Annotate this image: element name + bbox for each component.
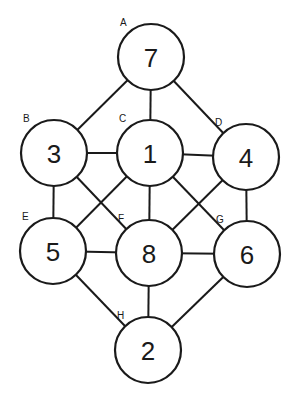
node-C: 1C [117, 113, 183, 186]
node-label: H [117, 310, 124, 321]
node-label: G [216, 214, 224, 225]
node-value: 2 [141, 336, 155, 366]
edges [53, 57, 247, 350]
node-E: 5E [20, 211, 86, 284]
node-value: 7 [144, 43, 158, 73]
node-label: B [23, 113, 30, 124]
node-H: 2H [115, 310, 181, 383]
node-label: F [118, 213, 124, 224]
node-label: A [120, 17, 127, 28]
node-value: 5 [46, 237, 60, 267]
node-label: D [215, 117, 222, 128]
node-value: 4 [239, 143, 253, 173]
node-A: 7A [118, 17, 184, 90]
node-value: 8 [142, 239, 156, 269]
node-value: 6 [240, 240, 254, 270]
node-label: E [22, 211, 29, 222]
node-B: 3B [21, 113, 87, 186]
node-value: 1 [143, 139, 157, 169]
node-F: 8F [116, 213, 182, 286]
node-value: 3 [47, 139, 61, 169]
graph-diagram: 7A3B1C4D5E8F6G2H [0, 0, 295, 406]
node-G: 6G [214, 214, 280, 287]
node-D: 4D [213, 117, 279, 190]
node-label: C [119, 113, 126, 124]
